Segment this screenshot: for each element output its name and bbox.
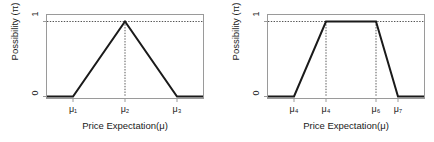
x-tick-label-mu6: μ₆ — [364, 104, 388, 114]
panel-triangular: Possibility (π) 1 0 μ₁ μ₂ μ₃ Price Expec… — [0, 0, 217, 142]
x-tick-label-mu4b: μ₄ — [314, 104, 338, 114]
panel-trapezoidal: Possibility (π) 1 0 μ₄ μ₄ μ₆ μ₇ Price Ex… — [217, 0, 434, 142]
x-tick-label-mu1: μ₁ — [61, 104, 85, 114]
x-tick-label-mu7: μ₇ — [386, 104, 410, 114]
data-curve-trapezoidal — [268, 22, 424, 97]
figure-possibility-distributions: Possibility (π) 1 0 μ₁ μ₂ μ₃ Price Expec… — [0, 0, 434, 142]
x-axis-title-left: Price Expectation(μ) — [46, 120, 204, 131]
x-tick-label-mu4a: μ₄ — [282, 104, 306, 114]
x-tick-label-mu2: μ₂ — [113, 104, 137, 114]
x-axis-title-right: Price Expectation(μ) — [267, 120, 425, 131]
x-tick-label-mu3: μ₃ — [165, 104, 189, 114]
